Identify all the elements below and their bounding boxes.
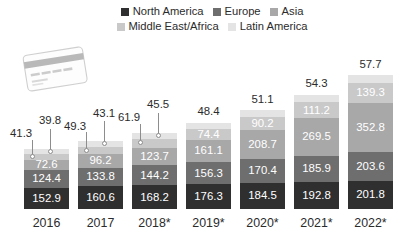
bar-column[interactable]: 39.841.372.6124.4152.939.841.3: [24, 49, 69, 209]
bar-column[interactable]: 48.474.4161.1156.3176.348.4: [186, 49, 231, 209]
bar-segment-value: 156.3: [194, 168, 223, 179]
bar-segment-value: 152.9: [32, 193, 61, 204]
leader-dot-middle-east-africa: [30, 154, 35, 159]
legend-label-middle-east-africa: Middle East/Africa: [129, 21, 219, 32]
bar-stack: 48.474.4161.1156.3176.3: [186, 123, 231, 209]
bar-segment-value: 176.3: [194, 191, 223, 202]
bar-segment-value: 160.6: [86, 192, 115, 203]
bar-stack: 51.190.2208.7170.4184.5: [240, 110, 285, 209]
legend-item-asia: Asia: [270, 6, 304, 17]
legend-row-1: North America Europe Asia: [96, 6, 328, 17]
bar-outside-value-latin-america: 43.1: [93, 108, 115, 119]
legend-swatch-latin-america: [228, 23, 236, 31]
bar-segment-value: 201.8: [356, 189, 385, 200]
bar-segment[interactable]: 269.5: [294, 118, 339, 156]
bar-stack: 54.3111.2269.5185.9192.8: [294, 95, 339, 209]
bar-segment-value: 96.2: [89, 155, 111, 166]
bar-segment[interactable]: 170.4: [240, 159, 285, 183]
bar-segment[interactable]: 54.3: [294, 95, 339, 103]
x-axis-tick-label: 2020*: [240, 211, 285, 235]
bar-segment-value: 123.7: [140, 151, 169, 162]
x-axis-tick-labels: 201620172018*2019*2020*2021*2022*: [24, 211, 393, 235]
legend-item-north-america: North America: [121, 6, 204, 17]
bar-column[interactable]: 45.561.9123.7144.2168.245.561.9: [132, 49, 177, 209]
bar-group: 39.841.372.6124.4152.939.841.343.149.396…: [24, 49, 393, 209]
legend-item-europe: Europe: [213, 6, 261, 17]
leader-dot-latin-america: [156, 133, 161, 138]
bar-outside-value-latin-america: 54.3: [294, 78, 339, 89]
bar-segment-value: 184.5: [248, 190, 277, 201]
bar-segment[interactable]: 111.2: [294, 102, 339, 118]
legend-label-latin-america: Latin America: [240, 21, 308, 32]
bar-segment[interactable]: 161.1: [186, 140, 231, 163]
bar-stack: 57.7139.3352.8203.6201.8: [348, 75, 393, 209]
bar-segment[interactable]: 185.9: [294, 156, 339, 182]
bar-outside-value-latin-america: 39.8: [39, 115, 61, 126]
bar-segment[interactable]: 124.4: [24, 170, 69, 187]
bar-segment-value: 192.8: [302, 190, 331, 201]
bar-column[interactable]: 57.7139.3352.8203.6201.857.7: [348, 49, 393, 209]
bar-segment[interactable]: 176.3: [186, 184, 231, 209]
bar-segment[interactable]: 123.7: [132, 148, 177, 165]
stacked-bar-chart: North America Europe Asia Middle East/Af…: [0, 0, 405, 235]
bar-outside-value-latin-america: 48.4: [186, 106, 231, 117]
bar-segment[interactable]: 72.6: [24, 160, 69, 170]
bar-segment[interactable]: 352.8: [348, 103, 393, 152]
bar-segment-value: 161.1: [194, 145, 223, 156]
bar-outside-value-middle-east-africa: 61.9: [118, 112, 140, 123]
bar-segment-value: 139.3: [356, 87, 385, 98]
bar-segment[interactable]: 168.2: [132, 185, 177, 209]
bar-segment-value: 111.2: [303, 105, 330, 116]
leader-dot-middle-east-africa: [84, 148, 89, 153]
bar-segment-value: 352.8: [356, 122, 385, 133]
bar-segment[interactable]: 152.9: [24, 188, 69, 209]
bar-segment-value: 269.5: [302, 131, 331, 142]
bar-segment-value: 170.4: [248, 165, 277, 176]
bar-segment[interactable]: 133.8: [78, 168, 123, 187]
bar-outside-value-latin-america: 45.5: [147, 99, 169, 110]
bar-segment[interactable]: 184.5: [240, 183, 285, 209]
x-axis-tick-label: 2018*: [132, 211, 177, 235]
bar-segment[interactable]: 201.8: [348, 181, 393, 209]
bar-segment-value: 72.6: [35, 159, 57, 170]
bar-segment[interactable]: 90.2: [240, 117, 285, 130]
chart-legend: North America Europe Asia Middle East/Af…: [96, 6, 328, 32]
bar-segment[interactable]: 156.3: [186, 162, 231, 184]
legend-label-europe: Europe: [225, 6, 261, 17]
bar-outside-value-middle-east-africa: 41.3: [10, 128, 32, 139]
bar-segment[interactable]: 208.7: [240, 130, 285, 159]
bar-segment[interactable]: 139.3: [348, 83, 393, 103]
bar-column[interactable]: 51.190.2208.7170.4184.551.1: [240, 49, 285, 209]
bar-column[interactable]: 43.149.396.2133.8160.643.149.3: [78, 49, 123, 209]
bar-segment[interactable]: 192.8: [294, 182, 339, 209]
legend-item-middle-east-africa: Middle East/Africa: [117, 21, 219, 32]
bar-segment[interactable]: 96.2: [78, 154, 123, 167]
leader-line-latin-america: [158, 113, 159, 135]
bar-outside-value-middle-east-africa: 49.3: [64, 121, 86, 132]
bar-segment[interactable]: 74.4: [186, 129, 231, 139]
legend-swatch-middle-east-africa: [117, 23, 125, 31]
bar-segment-value: 208.7: [248, 139, 277, 150]
legend-row-2: Middle East/Africa Latin America: [96, 21, 328, 32]
plot-area: 39.841.372.6124.4152.939.841.343.149.396…: [24, 34, 405, 235]
bar-outside-value-latin-america: 57.7: [348, 59, 393, 70]
bar-segment-value: 74.4: [197, 129, 219, 140]
leader-dot-latin-america: [48, 149, 53, 154]
bar-segment-value: 185.9: [302, 163, 331, 174]
leader-line-latin-america: [50, 129, 51, 151]
legend-label-asia: Asia: [282, 6, 304, 17]
bar-segment[interactable]: 144.2: [132, 165, 177, 185]
bar-segment[interactable]: 160.6: [78, 186, 123, 209]
legend-swatch-north-america: [121, 8, 129, 16]
bar-column[interactable]: 54.3111.2269.5185.9192.854.3: [294, 49, 339, 209]
legend-label-north-america: North America: [133, 6, 204, 17]
bar-segment[interactable]: 203.6: [348, 152, 393, 181]
x-axis-tick-label: 2022*: [348, 211, 393, 235]
bar-segment-value: 144.2: [140, 170, 169, 181]
bar-segment[interactable]: 57.7: [348, 75, 393, 83]
bar-segment-value: 124.4: [32, 173, 61, 184]
x-axis-tick-label: 2019*: [186, 211, 231, 235]
leader-line-latin-america: [104, 121, 105, 143]
x-axis-tick-label: 2017: [78, 211, 123, 235]
legend-swatch-europe: [213, 8, 221, 16]
